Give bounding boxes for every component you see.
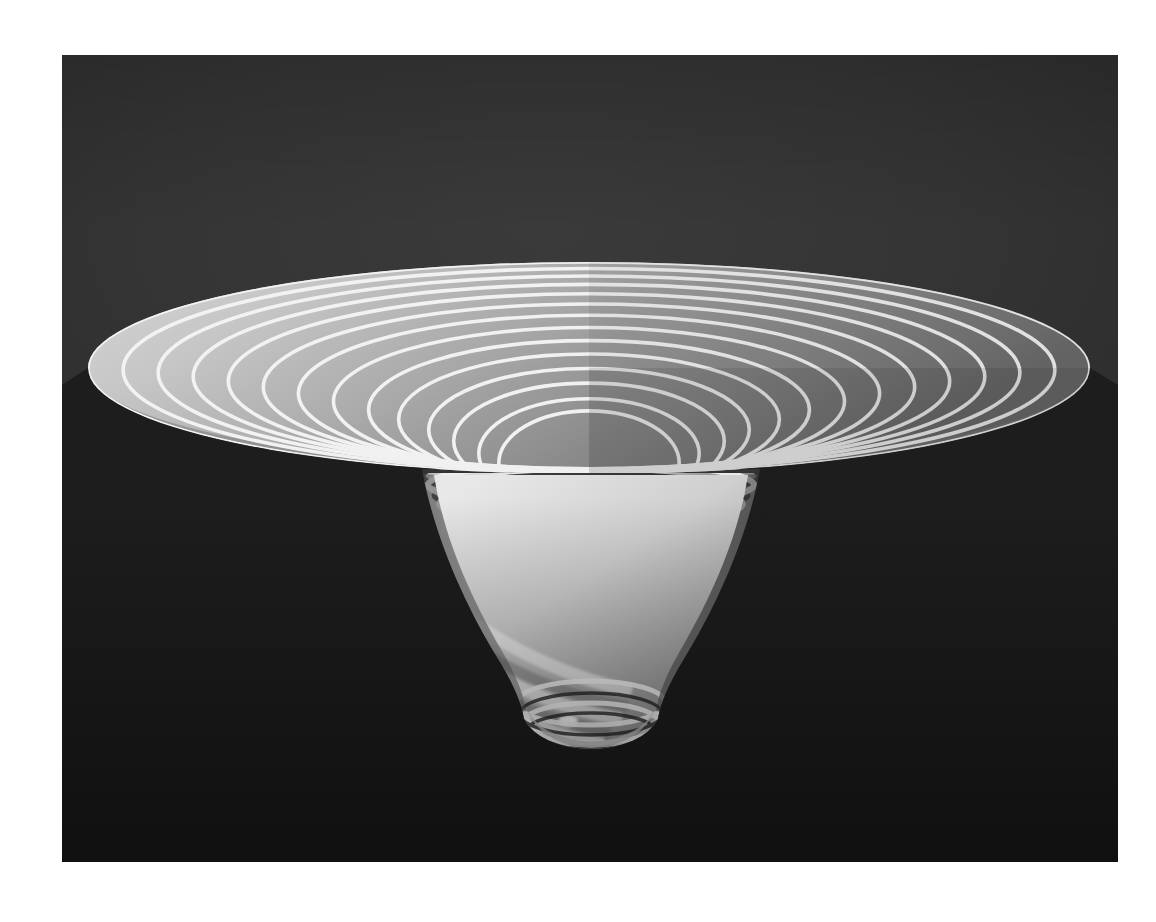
surface-plot-canvas [62,55,1118,862]
render-panel [62,55,1118,862]
figure-page [0,0,1156,922]
